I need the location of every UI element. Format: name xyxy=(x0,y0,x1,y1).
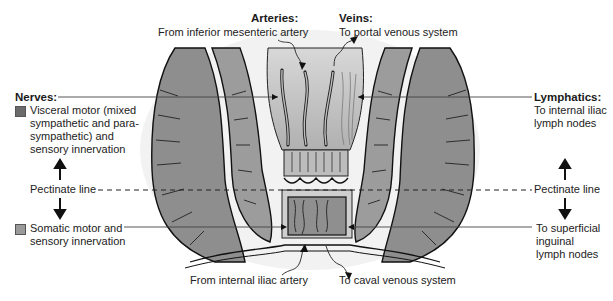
lymphatics-heading: Lymphatics: xyxy=(534,91,601,104)
arteries-heading: Arteries: xyxy=(251,12,298,25)
nerves-heading: Nerves: xyxy=(15,91,57,104)
arteries-lower-label: From internal iliac artery xyxy=(190,274,308,287)
lymphatics-lower-label: To superficial inguinal lymph nodes xyxy=(536,222,600,261)
arteries-upper-label: From inferior mesenteric artery xyxy=(158,26,308,39)
pectinate-label-right: Pectinate line xyxy=(534,183,600,196)
visceral-swatch xyxy=(15,106,26,117)
veins-lower-label: To caval venous system xyxy=(339,274,456,287)
nerves-upper-label: Visceral motor (mixed sympathetic and pa… xyxy=(30,104,139,156)
veins-heading: Veins: xyxy=(339,12,373,25)
somatic-swatch xyxy=(15,224,26,235)
veins-upper-label: To portal venous system xyxy=(339,26,458,39)
pectinate-label-left: Pectinate line xyxy=(30,183,96,196)
nerves-lower-label: Somatic motor and sensory innervation xyxy=(30,222,125,248)
lymphatics-upper-label: To internal iliac lymph nodes xyxy=(534,104,607,130)
